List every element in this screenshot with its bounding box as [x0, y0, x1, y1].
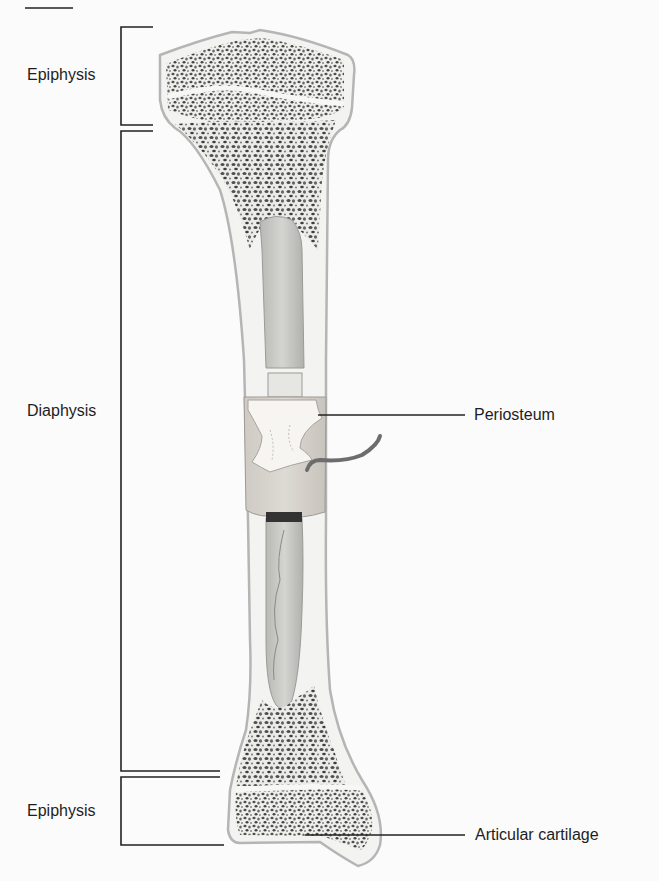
- spongy-bone-metaphysis-top: [175, 120, 336, 250]
- label-articular-cartilage: Articular cartilage: [475, 826, 599, 844]
- bracket-epiphysis-bottom: [121, 777, 224, 845]
- label-epiphysis-bottom: Epiphysis: [27, 802, 95, 820]
- medullary-cavity-upper: [260, 216, 304, 368]
- bone-diagram: [0, 0, 659, 881]
- label-diaphysis: Diaphysis: [27, 402, 96, 420]
- label-periosteum: Periosteum: [474, 406, 555, 424]
- bracket-epiphysis-top: [121, 27, 153, 125]
- label-epiphysis-top: Epiphysis: [27, 66, 95, 84]
- marrow-plug: [268, 373, 302, 397]
- bracket-diaphysis: [121, 131, 220, 771]
